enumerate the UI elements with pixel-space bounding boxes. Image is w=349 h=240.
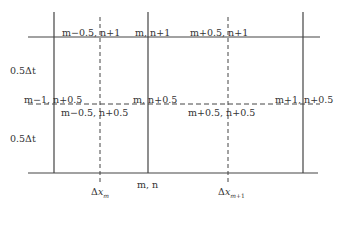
label-bottom-center: m, n — [137, 180, 158, 190]
label-top-right-half: m+0.5, n+1 — [190, 28, 248, 38]
time-step-upper: 0.5Δt — [10, 66, 36, 76]
label-top-left-half: m−0.5, n+1 — [62, 28, 120, 38]
label-top-center: m, n+1 — [135, 28, 170, 38]
space-step-m+1: Δxm+1 — [218, 187, 245, 199]
space-step-m: Δxm — [91, 187, 109, 199]
label-mid-right: m+1, n+0.5 — [275, 95, 333, 105]
label-mid-left-half: m−0.5, n+0.5 — [61, 108, 128, 118]
label-mid-right-half: m+0.5, n+0.5 — [188, 108, 255, 118]
label-mid-center: m, n+0.5 — [133, 95, 177, 105]
time-step-lower: 0.5Δt — [10, 134, 36, 144]
label-mid-left: m−1, n+0.5 — [24, 95, 82, 105]
